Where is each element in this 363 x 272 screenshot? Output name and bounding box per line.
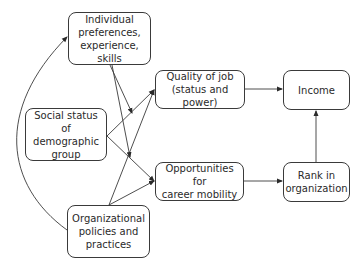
node-label-line: practices xyxy=(72,238,145,251)
node-career-opportunities: Opportunities for career mobility xyxy=(155,162,244,201)
node-individual-preferences: Individual preferences, experience, skil… xyxy=(68,12,151,65)
node-label-line: experience, skills xyxy=(72,39,147,65)
node-label-line: policies and xyxy=(72,225,145,238)
node-label-line: organization xyxy=(285,182,347,195)
edge-organizational-to-quality xyxy=(109,90,154,205)
node-quality-of-job: Quality of job (status and power) xyxy=(155,70,245,109)
node-label-line: Organizational xyxy=(72,212,145,225)
node-label-line: (status and power) xyxy=(159,83,241,109)
node-social-status: Social status of demographic group xyxy=(25,108,107,161)
edge-organizational-to-opportunities xyxy=(109,181,154,205)
node-label-line: Rank in xyxy=(285,169,347,182)
node-label-line: preferences, xyxy=(72,26,147,39)
node-rank-in-organization: Rank in organization xyxy=(283,162,350,202)
node-income: Income xyxy=(283,70,350,110)
node-label-line: Income xyxy=(298,84,335,97)
node-label-line: career mobility xyxy=(159,188,240,201)
node-label-line: Opportunities for xyxy=(159,162,240,188)
edge-social-to-quality xyxy=(107,90,154,136)
node-label-line: Quality of job xyxy=(159,70,241,83)
node-label-line: Social status of xyxy=(29,109,103,135)
node-label-line: group xyxy=(29,148,103,161)
node-organizational-policies: Organizational policies and practices xyxy=(67,205,150,258)
edge-social-to-opportunities xyxy=(107,136,154,181)
node-label-line: Individual xyxy=(72,13,147,26)
node-label-line: demographic xyxy=(29,135,103,148)
